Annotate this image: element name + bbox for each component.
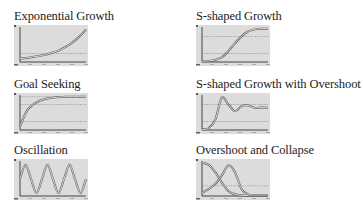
chart-svg <box>196 25 270 66</box>
chart-svg <box>14 25 88 66</box>
behavior-chart-thumbnail <box>196 159 270 200</box>
chart-svg <box>196 93 270 134</box>
panel-title: Goal Seeking <box>14 78 184 91</box>
chart-svg <box>14 93 88 134</box>
behavior-chart-thumbnail <box>196 25 270 66</box>
panel-title: S-shaped Growth <box>196 10 363 23</box>
behavior-chart-thumbnail <box>14 25 88 66</box>
behavior-chart-thumbnail <box>196 93 270 134</box>
panel-oscillation: Oscillation <box>14 144 184 157</box>
panel-title: Overshoot and Collapse <box>196 144 363 157</box>
panel-exponential-growth: Exponential Growth <box>14 10 184 23</box>
panel-s-shaped-growth-with-overshoot: S-shaped Growth with Overshoot <box>196 78 363 91</box>
panel-title: Oscillation <box>14 144 184 157</box>
panel-title: Exponential Growth <box>14 10 184 23</box>
panel-overshoot-and-collapse: Overshoot and Collapse <box>196 144 363 157</box>
panel-title: S-shaped Growth with Overshoot <box>196 78 363 91</box>
panel-goal-seeking: Goal Seeking <box>14 78 184 91</box>
chart-svg <box>196 159 270 200</box>
chart-svg <box>14 159 88 200</box>
behavior-chart-thumbnail <box>14 93 88 134</box>
panel-s-shaped-growth: S-shaped Growth <box>196 10 363 23</box>
behavior-chart-thumbnail <box>14 159 88 200</box>
